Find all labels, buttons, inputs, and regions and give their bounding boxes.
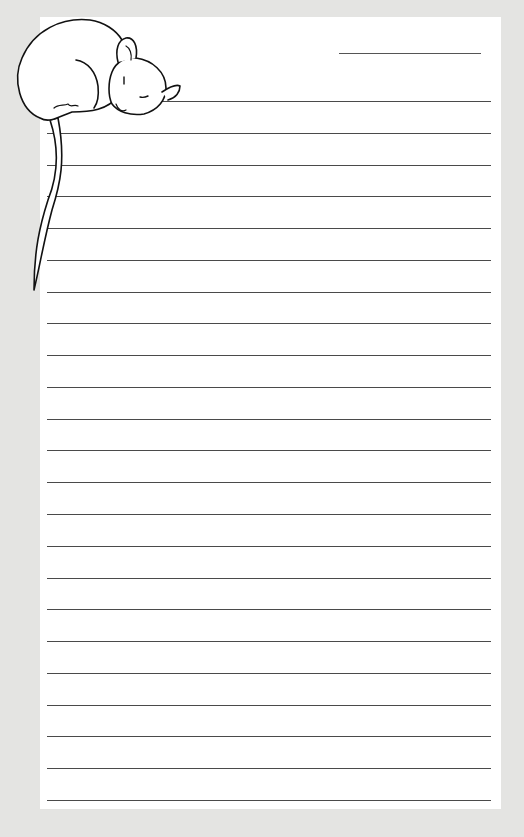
ruled-line <box>47 578 491 579</box>
ruled-line <box>47 609 491 610</box>
ruled-line <box>47 673 491 674</box>
date-line <box>339 53 481 54</box>
ruled-line <box>47 514 491 515</box>
ruled-line <box>47 736 491 737</box>
ruled-line <box>47 228 491 229</box>
ruled-line <box>47 768 491 769</box>
ruled-line <box>47 800 491 801</box>
ruled-line <box>47 450 491 451</box>
ruled-line <box>47 323 491 324</box>
ruled-line <box>47 641 491 642</box>
ruled-line <box>47 355 491 356</box>
ruled-line <box>47 165 491 166</box>
ruled-line <box>47 705 491 706</box>
ruled-line <box>47 133 491 134</box>
ruled-line <box>47 482 491 483</box>
writing-paper <box>40 17 501 809</box>
ruled-line <box>47 419 491 420</box>
ruled-line <box>47 101 491 102</box>
ruled-line <box>47 196 491 197</box>
ruled-line <box>47 546 491 547</box>
ruled-line <box>47 292 491 293</box>
ruled-line <box>47 260 491 261</box>
ruled-line <box>47 387 491 388</box>
